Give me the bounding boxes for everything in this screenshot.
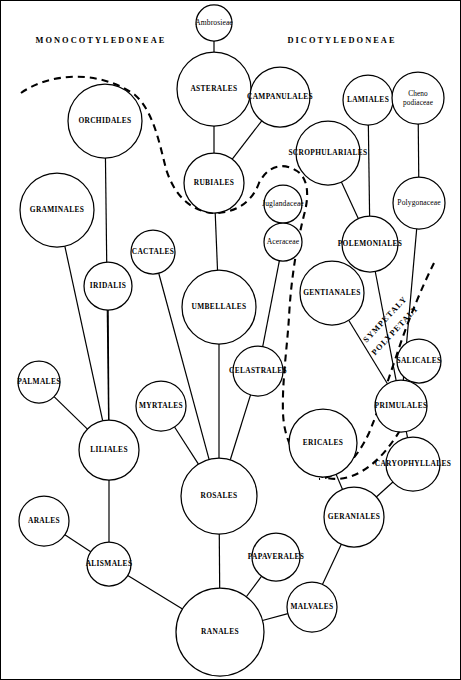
node-label-caryophyllales: CARYOPHYLLALES (375, 459, 452, 468)
node-juglandaceae[interactable]: Juglandaceae (262, 185, 304, 223)
class-heading-dicot: DICOTYLEDONEAE (287, 36, 396, 45)
node-geraniales[interactable]: GERANIALES (324, 487, 384, 547)
edge-geraniales-malvales (323, 544, 342, 584)
edge-campanulales-rubiales (232, 121, 261, 159)
node-label-polygonaceae: Polygonaceae (397, 198, 441, 207)
node-salicales[interactable]: SALICALES (396, 339, 441, 383)
node-papaverales[interactable]: PAPAVERALES (248, 533, 304, 581)
node-label-geraniales: GERANIALES (328, 512, 380, 521)
node-polygonaceae[interactable]: Polygonaceae (393, 177, 445, 229)
node-label-graminales: GRAMINALES (30, 205, 84, 214)
node-label-ambrosieae: Ambrosieae (195, 18, 233, 27)
node-primulales[interactable]: PRIMULALES (375, 380, 428, 432)
edge-myrtales-rosales (175, 427, 199, 464)
node-label-iridalis: IRIDALIS (90, 281, 126, 290)
node-label-gentianales: GENTIANALES (303, 288, 361, 297)
node-label-rosales: ROSALES (201, 491, 238, 500)
diagram-canvas: AmbrosieaeASTERALESCAMPANULALESLAMIALESC… (1, 1, 461, 680)
node-label-asterales: ASTERALES (190, 84, 237, 93)
edge-celastrales-rosales (230, 395, 250, 460)
node-malvales[interactable]: MALVALES (287, 582, 337, 632)
node-label-juglandaceae: Juglandaceae (262, 199, 304, 208)
node-liliales[interactable]: LILIALES (79, 420, 139, 480)
node-ericales[interactable]: ERICALES (289, 409, 357, 477)
edge-iridalis-liliales (108, 310, 109, 420)
node-label-ericales: ERICALES (303, 438, 344, 447)
node-label-palmales: PALMALES (17, 377, 60, 386)
node-ambrosieae[interactable]: Ambrosieae (195, 5, 233, 41)
node-rosales[interactable]: ROSALES (181, 458, 257, 534)
node-myrtales[interactable]: MYRTALES (136, 381, 186, 431)
node-label-cactales: CACTALES (132, 247, 175, 256)
edge-malvales-ranales (262, 614, 287, 621)
node-ranales[interactable]: RANALES (176, 588, 264, 676)
node-label-primulales: PRIMULALES (375, 401, 428, 410)
node-caryophyllales[interactable]: CARYOPHYLLALES (375, 437, 452, 491)
node-label-aceraceae: Aceraceae (267, 237, 300, 246)
node-label-umbellales: UMBELLALES (192, 302, 247, 311)
node-rubiales[interactable]: RUBIALES (184, 153, 244, 213)
edge-papaverales-ranales (246, 576, 261, 597)
node-arales[interactable]: ARALES (19, 496, 69, 546)
node-label-alismales: ALISMALES (86, 559, 133, 568)
edge-arales-alismales (65, 535, 91, 552)
node-label-myrtales: MYRTALES (139, 401, 183, 410)
node-celastrales[interactable]: CELASTRALES (229, 346, 287, 396)
node-asterales[interactable]: ASTERALES (177, 52, 251, 126)
edge-ericales-geraniales (336, 474, 342, 489)
phylogenetic-diagram: AmbrosieaeASTERALESCAMPANULALESLAMIALESC… (0, 0, 461, 680)
node-campanulales[interactable]: CAMPANULALES (247, 67, 313, 127)
edge-scrophulariales-polemoniales (341, 182, 358, 219)
edge-primulales-caryophyllales (406, 431, 407, 437)
node-umbellales[interactable]: UMBELLALES (182, 270, 256, 344)
edge-aceraceae-celastrales (263, 261, 280, 347)
class-heading-monocot: MONOCOTYLEDONEAE (36, 36, 167, 45)
node-label-lamiales: LAMIALES (347, 95, 389, 104)
node-palmales[interactable]: PALMALES (17, 361, 60, 403)
edge-palmales-liliales (54, 397, 87, 429)
node-label-orchidales: ORCHIDALES (78, 116, 131, 125)
node-label-malvales: MALVALES (290, 602, 333, 611)
node-lamiales[interactable]: LAMIALES (343, 75, 393, 125)
node-label-celastrales: CELASTRALES (229, 366, 287, 375)
node-polemoniales[interactable]: POLEMONIALES (338, 216, 403, 272)
node-label-salicales: SALICALES (396, 356, 441, 365)
node-chenopodiaceae[interactable]: Chenopodiaceae (392, 72, 444, 124)
edge-lamiales-polemoniales (368, 125, 369, 216)
node-graminales[interactable]: GRAMINALES (20, 173, 94, 247)
node-label-ranales: RANALES (201, 627, 239, 636)
node-scrophulariales[interactable]: SCROPHULARIALES (288, 121, 367, 185)
edge-alismales-ranales (128, 575, 183, 609)
node-label-liliales: LILIALES (90, 445, 128, 454)
node-iridalis[interactable]: IRIDALIS (84, 262, 132, 310)
node-label-scrophulariales: SCROPHULARIALES (288, 148, 367, 157)
node-label-rubiales: RUBIALES (194, 178, 235, 187)
edge-rubiales-umbellales (215, 213, 217, 270)
node-label-campanulales: CAMPANULALES (247, 92, 313, 101)
node-gentianales[interactable]: GENTIANALES (300, 261, 364, 325)
node-aceraceae[interactable]: Aceraceae (264, 223, 302, 261)
node-label-polemoniales: POLEMONIALES (338, 239, 403, 248)
edge-caryophyllales-geraniales (376, 482, 393, 497)
node-alismales[interactable]: ALISMALES (86, 542, 133, 586)
node-label-arales: ARALES (28, 516, 60, 525)
edge-chenopodiaceae-polygonaceae (418, 124, 419, 177)
node-label-papaverales: PAPAVERALES (248, 552, 304, 561)
node-orchidales[interactable]: ORCHIDALES (68, 84, 142, 158)
node-cactales[interactable]: CACTALES (131, 230, 175, 274)
